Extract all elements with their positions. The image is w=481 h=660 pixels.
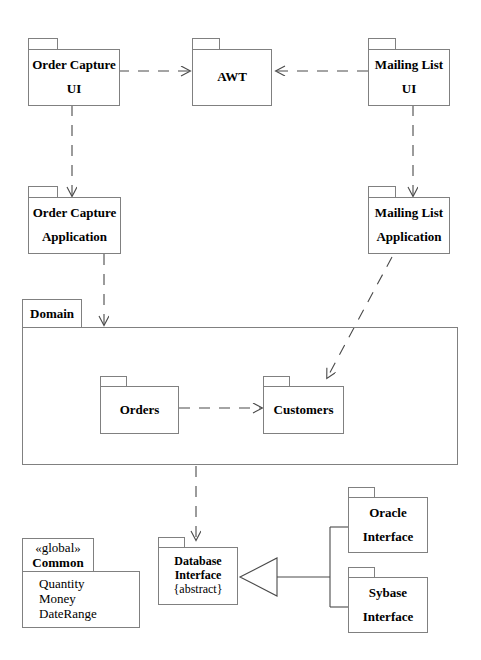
package-body: Mailing List Application [368, 197, 450, 254]
domain-package-tab: Domain [22, 299, 82, 328]
uml-package-diagram: AWT (dashed, horizontal) --> AWT (dashed… [0, 0, 481, 660]
package-label-line1: Order Capture [33, 206, 117, 221]
package-mailing-list-application[interactable]: Mailing List Application [368, 186, 450, 254]
package-label-line2: UI [67, 82, 81, 97]
package-label-line2: Interface [363, 530, 414, 545]
package-body: Customers [263, 386, 344, 434]
package-label-line1: AWT [217, 70, 247, 85]
package-label-line1: Mailing List [375, 58, 443, 73]
package-body: Database Interface {abstract} [158, 547, 238, 605]
package-label-line1: Sybase [369, 586, 407, 601]
package-label-line2: Application [376, 230, 441, 245]
member-item: Money [39, 592, 76, 607]
package-orders[interactable]: Orders [100, 376, 179, 434]
package-label-line1: Common [32, 556, 83, 571]
package-order-capture-application[interactable]: Order Capture Application [28, 186, 121, 254]
stereotype-label: «global» [35, 541, 81, 556]
package-body: Order Capture UI [28, 49, 120, 106]
package-label-line1: Orders [120, 403, 160, 418]
package-body: Mailing List UI [368, 49, 450, 106]
package-mailing-list-ui[interactable]: Mailing List UI [368, 38, 450, 106]
domain-package-container[interactable] [22, 327, 458, 465]
package-body: Order Capture Application [28, 197, 121, 254]
package-body: Orders [100, 386, 179, 434]
package-common[interactable]: «global» Common Quantity Money DateRange [22, 538, 140, 610]
package-label-line2: Interface [363, 610, 414, 625]
package-body-members: Quantity Money DateRange [22, 571, 140, 628]
package-body: Oracle Interface [348, 497, 428, 553]
package-label-line2: UI [402, 82, 416, 97]
package-sybase-interface[interactable]: Sybase Interface [348, 567, 428, 633]
package-order-capture-ui[interactable]: Order Capture UI [28, 38, 120, 106]
package-label-line2: Application [42, 230, 107, 245]
package-body: AWT [192, 49, 272, 106]
edge-generalization-to-database-interface [240, 527, 348, 607]
package-label-line1: Mailing List [375, 206, 443, 221]
package-label-line2: Interface [175, 569, 222, 583]
package-oracle-interface[interactable]: Oracle Interface [348, 487, 428, 553]
package-awt[interactable]: AWT [192, 38, 272, 106]
package-customers[interactable]: Customers [263, 376, 344, 434]
abstract-marker: {abstract} [174, 583, 223, 597]
package-body: Sybase Interface [348, 577, 428, 633]
package-database-interface[interactable]: Database Interface {abstract} [158, 537, 238, 605]
package-label-line1: Customers [274, 403, 334, 418]
domain-label: Domain [30, 306, 74, 322]
package-tab-stereotype: «global» Common [22, 538, 94, 572]
package-label-line1: Order Capture [32, 58, 116, 73]
package-label-line1: Database [174, 555, 221, 569]
package-label-line1: Oracle [369, 506, 407, 521]
member-item: Quantity [39, 577, 85, 592]
member-item: DateRange [39, 607, 97, 622]
